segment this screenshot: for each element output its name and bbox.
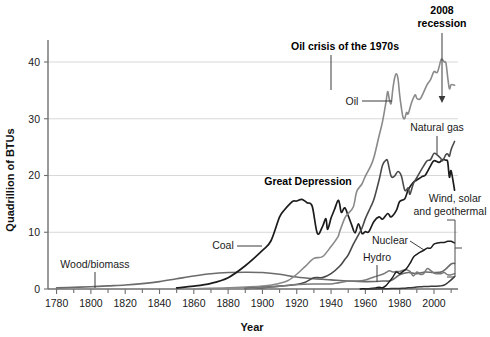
x-tick-label: 1920	[285, 297, 309, 309]
y-tick-label: 10	[28, 226, 40, 238]
series-label-wind-solar-and-geothermal: Wind, solar	[429, 192, 482, 204]
x-tick-label: 1980	[388, 297, 412, 309]
x-tick-label: 1960	[354, 297, 378, 309]
x-tick-label: 1940	[319, 297, 343, 309]
x-tick-label: 1840	[148, 297, 172, 309]
annotation-recession-2008-line2: recession	[417, 17, 466, 29]
series-label-wood-biomass: Wood/biomass	[60, 258, 129, 270]
x-tick-label: 1880	[216, 297, 240, 309]
y-tick-label: 0	[34, 283, 40, 295]
y-tick-label: 20	[28, 169, 40, 181]
series-label-oil: Oil	[346, 95, 359, 107]
y-tick-label: 30	[28, 113, 40, 125]
series-label-hydro: Hydro	[363, 251, 391, 263]
energy-consumption-chart: 1780180018201840186018801900192019401960…	[0, 0, 490, 337]
y-axis-title: Quadrillion of BTUs	[4, 128, 16, 231]
chart-canvas: 1780180018201840186018801900192019401960…	[0, 0, 490, 337]
x-tick-label: 1900	[251, 297, 275, 309]
annotation-great-depression: Great Depression	[264, 175, 352, 187]
series-label-nuclear: Nuclear	[372, 234, 409, 246]
annotation-recession-2008-line1: 2008	[430, 4, 454, 16]
x-tick-label: 1860	[182, 297, 206, 309]
x-tick-label: 1800	[79, 297, 103, 309]
y-tick-label: 40	[28, 56, 40, 68]
x-tick-label: 2000	[422, 297, 446, 309]
series-label-coal: Coal	[212, 239, 234, 251]
x-axis-title: Year	[240, 321, 264, 333]
series-label-wind-solar-and-geothermal-2: and geothermal	[414, 205, 487, 217]
series-label-natural-gas: Natural gas	[410, 121, 464, 133]
annotation-oil-crisis-1970s: Oil crisis of the 1970s	[291, 40, 399, 52]
x-tick-label: 1780	[45, 297, 69, 309]
x-tick-label: 1820	[114, 297, 138, 309]
